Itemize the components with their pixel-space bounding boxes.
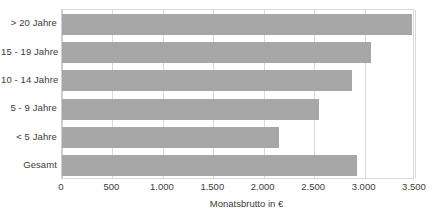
gridline <box>163 10 164 178</box>
category-label: < 5 Jahre <box>1 131 57 142</box>
gridline <box>112 10 113 178</box>
category-label: > 20 Jahre <box>1 17 57 28</box>
category-axis-labels: > 20 Jahre 15 - 19 Jahre 10 - 14 Jahre 5… <box>0 9 57 179</box>
tick-label: 500 <box>103 181 119 192</box>
category-label: 5 - 9 Jahre <box>1 102 57 113</box>
gridline <box>365 10 366 178</box>
bar-chart: > 20 Jahre 15 - 19 Jahre 10 - 14 Jahre 5… <box>0 0 433 220</box>
plot-area <box>61 9 414 179</box>
value-axis-tick-labels: 05001.0001.5002.0002.5003.0003.500 <box>0 181 433 197</box>
gridline <box>213 10 214 178</box>
x-axis-title: Monatsbrutto in € <box>0 198 433 209</box>
bar <box>62 155 357 176</box>
gridline <box>415 10 416 178</box>
bar <box>62 14 412 35</box>
bar <box>62 127 279 148</box>
gridline <box>264 10 265 178</box>
tick-label: 2.000 <box>251 181 275 192</box>
tick-label: 1.500 <box>200 181 224 192</box>
category-label: 15 - 19 Jahre <box>1 46 57 57</box>
bar <box>62 99 319 120</box>
tick-label: 0 <box>58 181 63 192</box>
tick-label: 3.500 <box>402 181 426 192</box>
gridline <box>314 10 315 178</box>
bar <box>62 70 352 91</box>
gridline <box>62 10 63 178</box>
tick-label: 3.000 <box>352 181 376 192</box>
category-label: Gesamt <box>1 159 57 170</box>
tick-label: 2.500 <box>301 181 325 192</box>
category-label: 10 - 14 Jahre <box>1 74 57 85</box>
bar <box>62 42 371 63</box>
tick-label: 1.000 <box>150 181 174 192</box>
